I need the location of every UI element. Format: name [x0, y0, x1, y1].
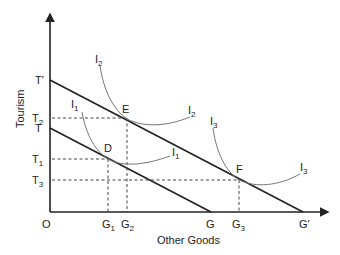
y-axis-title: Tourism — [14, 89, 26, 128]
x-axis-title: Other Goods — [157, 234, 220, 246]
point-label-E: E — [122, 103, 129, 115]
point-label-D: D — [104, 142, 112, 154]
curve-label-I2-top: I2 — [95, 53, 103, 68]
curve-label-I2-right: I2 — [188, 104, 196, 119]
y-tick-T1: T1 — [32, 153, 44, 168]
x-tick-G-prime: G′ — [299, 218, 310, 230]
budget-line-TG — [50, 128, 211, 212]
point-label-F: F — [236, 163, 243, 175]
curve-label-I3-top: I3 — [210, 115, 218, 130]
x-tick-G1: G1 — [102, 218, 116, 233]
diagram-canvas: T′ T2 T T1 T3 O G1 G2 G G3 G′ D E F I2 I… — [0, 0, 340, 255]
curve-label-I1-right: I1 — [172, 146, 180, 161]
curve-label-I1-top: I1 — [71, 98, 79, 113]
budget-line-TprimeGprime — [50, 80, 303, 212]
curve-label-I3-right: I3 — [300, 161, 308, 176]
indifference-curve-I2 — [100, 66, 190, 125]
y-tick-T: T — [35, 122, 42, 134]
x-tick-G3: G3 — [232, 218, 246, 233]
origin-label: O — [42, 218, 51, 230]
x-tick-G2: G2 — [121, 218, 135, 233]
y-tick-T-prime: T′ — [35, 74, 44, 86]
y-tick-T3: T3 — [32, 174, 44, 189]
indifference-curve-I3 — [213, 128, 300, 185]
x-tick-G: G — [206, 218, 215, 230]
